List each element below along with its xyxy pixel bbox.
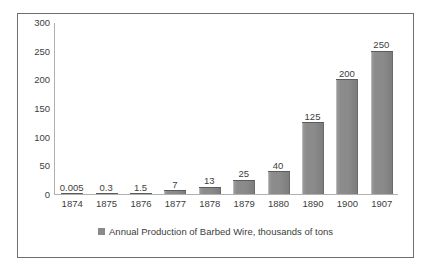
legend-label: Annual Production of Barbed Wire, thousa…: [109, 227, 333, 237]
x-axis-tick-label: 1877: [165, 199, 186, 209]
bar[interactable]: 0.005: [61, 193, 83, 194]
bar-value-label: 13: [204, 176, 215, 186]
bar[interactable]: 7: [164, 190, 186, 194]
bar[interactable]: 250: [371, 51, 393, 194]
bar-value-label: 0.005: [60, 183, 84, 193]
x-axis-tick-label: 1900: [337, 199, 358, 209]
y-axis-tick-label: 300: [34, 18, 50, 28]
x-axis-tick-label: 1880: [268, 199, 289, 209]
x-axis-tick-label: 1907: [371, 199, 392, 209]
plot-area: 050100150200250300 0.00518740.318751.518…: [54, 23, 398, 195]
bar-group: 1.51876: [130, 23, 152, 194]
bar-value-label: 250: [373, 40, 389, 50]
bar-group: 71877: [164, 23, 186, 194]
bar[interactable]: 200: [336, 79, 358, 194]
bar-value-label: 125: [305, 112, 321, 122]
bar-value-label: 0.3: [99, 183, 112, 193]
bar-value-label: 7: [172, 180, 177, 190]
y-axis-tick-label: 250: [34, 47, 50, 57]
bar-value-label: 40: [273, 161, 284, 171]
bar-group: 0.0051874: [61, 23, 83, 194]
x-axis-tick-label: 1874: [62, 199, 83, 209]
bar[interactable]: 1.5: [130, 193, 152, 194]
x-axis-tick-label: 1876: [130, 199, 151, 209]
y-axis-tick-label: 50: [39, 162, 50, 172]
bar-group: 0.31875: [96, 23, 118, 194]
bar[interactable]: 125: [302, 122, 324, 194]
chart-frame: 050100150200250300 0.00518740.318751.518…: [17, 13, 414, 258]
x-axis-tick-label: 1890: [302, 199, 323, 209]
bar[interactable]: 13: [199, 187, 221, 194]
bar-group: 2501907: [371, 23, 393, 194]
bar[interactable]: 25: [233, 180, 255, 194]
y-axis-tick-label: 200: [34, 76, 50, 86]
bar-group: 401880: [268, 23, 290, 194]
bar[interactable]: 40: [268, 171, 290, 194]
x-axis-tick-label: 1879: [234, 199, 255, 209]
bar-group: 2001900: [336, 23, 358, 194]
legend-swatch-icon: [98, 228, 105, 235]
y-axis-tick-label: 100: [34, 133, 50, 143]
bar-value-label: 200: [339, 69, 355, 79]
bar-value-label: 1.5: [134, 183, 147, 193]
x-axis-tick-label: 1875: [96, 199, 117, 209]
bar-group: 131878: [199, 23, 221, 194]
y-axis-tick-label: 0: [45, 190, 50, 200]
bar-group: 251879: [233, 23, 255, 194]
chart-legend: Annual Production of Barbed Wire, thousa…: [18, 227, 413, 237]
bar-value-label: 25: [238, 169, 249, 179]
bar[interactable]: 0.3: [96, 193, 118, 194]
y-axis-tick-label: 150: [34, 104, 50, 114]
x-axis-tick-label: 1878: [199, 199, 220, 209]
bar-group: 1251890: [302, 23, 324, 194]
